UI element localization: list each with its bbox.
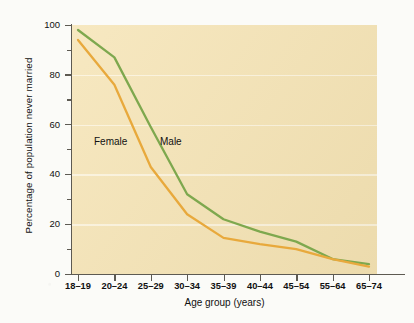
y-tick-labels: 100 80 60 40 20 0 — [32, 0, 60, 323]
x-tick-label-3: 30–34 — [174, 281, 200, 291]
y-tick-label-20: 20 — [34, 219, 60, 229]
series-lines — [72, 25, 377, 274]
y-tick-label-60: 60 — [34, 120, 60, 130]
x-tick-label-5: 40–44 — [247, 281, 273, 291]
line-female — [78, 40, 369, 267]
y-tick-90 — [67, 50, 71, 51]
y-tick-70 — [67, 99, 71, 100]
y-tick-60 — [65, 124, 71, 125]
x-axis-line — [71, 274, 405, 275]
y-tick-80 — [65, 74, 71, 75]
y-axis-line — [71, 24, 72, 275]
y-tick-0 — [65, 274, 71, 275]
line-male — [78, 30, 369, 264]
series-label-female: Female — [94, 136, 127, 147]
y-tick-100 — [65, 25, 71, 26]
x-tick-label-7: 55–64 — [320, 281, 346, 291]
series-label-male: Male — [160, 136, 182, 147]
y-tick-label-0: 0 — [34, 269, 60, 279]
x-tick-label-2: 25–29 — [138, 281, 164, 291]
x-tick-label-6: 45–54 — [283, 281, 309, 291]
y-tick-40 — [65, 174, 71, 175]
y-tick-20 — [65, 224, 71, 225]
y-axis-title: Percentage of population never married — [23, 41, 34, 251]
x-tick-label-4: 35–39 — [211, 281, 237, 291]
y-tick-label-80: 80 — [34, 70, 60, 80]
y-tick-label-40: 40 — [34, 169, 60, 179]
x-tick-label-8: 65–74 — [356, 281, 382, 291]
chart-figure: 100 80 60 40 20 0 Percentage of populati… — [0, 0, 414, 323]
y-tick-10 — [67, 249, 71, 250]
x-tick-label-0: 18–19 — [65, 281, 91, 291]
y-tick-50 — [67, 149, 71, 150]
x-tick-labels: 18–1920–2425–2930–3435–3940–4445–5455–64… — [0, 281, 414, 295]
x-tick-label-1: 20–24 — [101, 281, 127, 291]
y-tick-label-100: 100 — [34, 20, 60, 30]
y-tick-30 — [67, 199, 71, 200]
x-axis-title: Age group (years) — [72, 297, 377, 308]
